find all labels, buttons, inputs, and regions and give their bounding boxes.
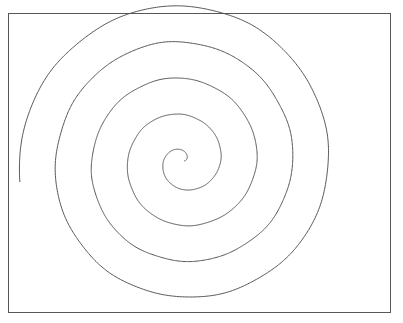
archimedean-spiral-curve xyxy=(19,6,328,297)
spiral-plot-area xyxy=(0,0,403,323)
figure-canvas xyxy=(0,0,403,323)
